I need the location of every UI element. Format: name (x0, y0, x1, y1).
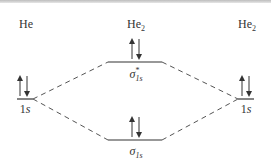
antibonding-label: σ*1s (129, 68, 142, 82)
header-right: He2 (238, 18, 256, 32)
header-left: He (19, 18, 33, 30)
bonding-label: σ1s (129, 145, 142, 159)
left-1s-label: 1s (20, 103, 31, 115)
header-center: He2 (127, 18, 145, 32)
right-1s-label: 1s (241, 103, 252, 115)
